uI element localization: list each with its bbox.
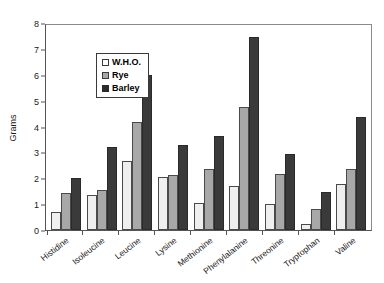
x-tick-label: Histidine bbox=[39, 236, 70, 263]
legend-item-rye: Rye bbox=[102, 71, 141, 80]
bar-group bbox=[48, 25, 84, 230]
x-label-slot: Tryptophan bbox=[298, 233, 334, 283]
bar-who-isoleucine[interactable] bbox=[87, 195, 97, 230]
legend-label-barley: Barley bbox=[112, 84, 140, 93]
y-tick-label: 0 bbox=[34, 227, 39, 236]
y-tick-label: 7 bbox=[34, 45, 39, 54]
bar-chart: Grams 012345678 W.H.O. Rye Barley Histid… bbox=[0, 0, 384, 283]
bar-barley-lysine[interactable] bbox=[178, 145, 188, 230]
y-axis: Grams 012345678 bbox=[0, 24, 45, 231]
legend-swatch-who-icon bbox=[102, 59, 109, 66]
legend-swatch-rye-icon bbox=[102, 72, 109, 79]
plot-area: W.H.O. Rye Barley bbox=[45, 24, 372, 231]
legend-item-who: W.H.O. bbox=[102, 58, 141, 67]
bar-rye-isoleucine[interactable] bbox=[97, 190, 107, 230]
y-tick-label: 3 bbox=[34, 149, 39, 158]
bar-rye-tryptophan[interactable] bbox=[311, 209, 321, 230]
x-tick-label: Valine bbox=[334, 236, 358, 257]
bars-layer bbox=[46, 25, 371, 230]
bar-rye-methionine[interactable] bbox=[204, 169, 214, 230]
y-tick-label: 5 bbox=[34, 97, 39, 106]
y-axis-title: Grams bbox=[8, 93, 18, 163]
bar-rye-leucine[interactable] bbox=[132, 122, 142, 230]
legend-label-rye: Rye bbox=[112, 71, 129, 80]
bar-who-phenylalanine[interactable] bbox=[229, 186, 239, 230]
x-label-slot: Leucine bbox=[119, 233, 155, 283]
bar-group bbox=[262, 25, 298, 230]
bar-group bbox=[333, 25, 369, 230]
bar-group bbox=[298, 25, 334, 230]
y-tick-label: 8 bbox=[34, 20, 39, 29]
x-label-slot: Valine bbox=[334, 233, 370, 283]
x-axis-labels: HistidineIsoleucineLeucineLysineMethioni… bbox=[45, 233, 372, 283]
y-tick-label: 2 bbox=[34, 175, 39, 184]
bar-group bbox=[191, 25, 227, 230]
bar-group bbox=[226, 25, 262, 230]
bar-barley-histidine[interactable] bbox=[71, 178, 81, 230]
bar-who-lysine[interactable] bbox=[158, 177, 168, 230]
legend-label-who: W.H.O. bbox=[112, 58, 141, 67]
legend-swatch-barley-icon bbox=[102, 85, 109, 92]
bar-barley-tryptophan[interactable] bbox=[321, 192, 331, 230]
bar-who-histidine[interactable] bbox=[51, 212, 61, 230]
bar-who-leucine[interactable] bbox=[122, 161, 132, 230]
bar-rye-valine[interactable] bbox=[346, 169, 356, 230]
bar-rye-threonine[interactable] bbox=[275, 174, 285, 230]
legend-item-barley: Barley bbox=[102, 84, 141, 93]
bar-rye-histidine[interactable] bbox=[61, 193, 71, 230]
bar-who-valine[interactable] bbox=[336, 184, 346, 230]
bar-barley-phenylalanine[interactable] bbox=[249, 37, 259, 230]
y-tick-label: 4 bbox=[34, 123, 39, 132]
bar-barley-methionine[interactable] bbox=[214, 136, 224, 230]
bar-barley-isoleucine[interactable] bbox=[107, 147, 117, 230]
bar-who-threonine[interactable] bbox=[265, 204, 275, 230]
bar-barley-leucine[interactable] bbox=[142, 75, 152, 230]
bar-rye-phenylalanine[interactable] bbox=[239, 107, 249, 230]
x-label-slot: Isoleucine bbox=[83, 233, 119, 283]
bar-rye-lysine[interactable] bbox=[168, 175, 178, 230]
bar-group bbox=[155, 25, 191, 230]
bar-barley-valine[interactable] bbox=[356, 117, 366, 230]
bar-who-methionine[interactable] bbox=[194, 203, 204, 230]
bar-who-tryptophan[interactable] bbox=[301, 224, 311, 230]
x-tick-label: Lysine bbox=[153, 236, 178, 258]
y-tick-label: 6 bbox=[34, 71, 39, 80]
y-tick-label: 1 bbox=[34, 201, 39, 210]
legend: W.H.O. Rye Barley bbox=[96, 53, 149, 98]
bar-barley-threonine[interactable] bbox=[285, 154, 295, 230]
